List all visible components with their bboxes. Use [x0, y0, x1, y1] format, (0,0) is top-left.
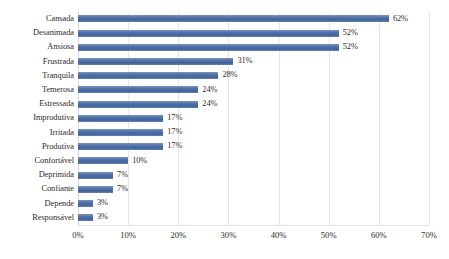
bar[interactable]	[78, 172, 113, 179]
bar[interactable]	[78, 115, 163, 122]
bar-value-label: 17%	[167, 125, 182, 139]
bar[interactable]	[78, 186, 113, 193]
bar-row: 7%	[78, 182, 429, 196]
category-label: Irritada	[0, 126, 74, 140]
bar-value-label: 52%	[343, 26, 358, 40]
x-tick-label: 60%	[371, 228, 387, 242]
bar-row: 3%	[78, 211, 429, 225]
x-axis-line	[78, 225, 429, 226]
category-label: Temerosa	[0, 83, 74, 97]
bar[interactable]	[78, 30, 339, 37]
category-label: Improdutiva	[0, 111, 74, 125]
bar[interactable]	[78, 72, 218, 79]
bar[interactable]	[78, 214, 93, 221]
category-label: Produtiva	[0, 140, 74, 154]
bar[interactable]	[78, 143, 163, 150]
category-axis-labels: CansadaDesanimadaAnsiosaFrustradaTranqui…	[0, 12, 74, 225]
bar-value-label: 62%	[393, 12, 408, 26]
gridline-70	[429, 12, 430, 225]
category-label: Responsável	[0, 211, 74, 225]
bar-row: 7%	[78, 168, 429, 182]
bar-value-label: 17%	[167, 111, 182, 125]
category-label: Tranquila	[0, 69, 74, 83]
category-label: Cansada	[0, 12, 74, 26]
category-label: Confiante	[0, 182, 74, 196]
bar[interactable]	[78, 15, 389, 22]
bar-value-label: 52%	[343, 40, 358, 54]
bar-row: 24%	[78, 97, 429, 111]
category-label: Ansiosa	[0, 40, 74, 54]
category-label: Deprimida	[0, 168, 74, 182]
x-tick-label: 50%	[321, 228, 337, 242]
bar-value-label: 28%	[222, 68, 237, 82]
bar-row: 17%	[78, 126, 429, 140]
bar-chart: CansadaDesanimadaAnsiosaFrustradaTranqui…	[0, 0, 449, 259]
category-label: Frustrada	[0, 55, 74, 69]
bar[interactable]	[78, 200, 93, 207]
bar-value-label: 3%	[97, 196, 108, 210]
bar-value-label: 3%	[97, 210, 108, 224]
x-tick-label: 20%	[170, 228, 186, 242]
bar-value-label: 31%	[237, 54, 252, 68]
bar[interactable]	[78, 157, 128, 164]
bar-row: 17%	[78, 140, 429, 154]
bar-row: 10%	[78, 154, 429, 168]
bar[interactable]	[78, 44, 339, 51]
category-label: Confortável	[0, 154, 74, 168]
bar-value-label: 24%	[202, 83, 217, 97]
bar-row: 17%	[78, 111, 429, 125]
bar[interactable]	[78, 129, 163, 136]
category-label: Estressada	[0, 97, 74, 111]
category-label: Depende	[0, 197, 74, 211]
x-tick-label: 70%	[421, 228, 437, 242]
x-tick-label: 10%	[120, 228, 136, 242]
bar-row: 24%	[78, 83, 429, 97]
category-label: Desanimada	[0, 26, 74, 40]
bar-row: 62%	[78, 12, 429, 26]
bar-row: 52%	[78, 26, 429, 40]
bar-row: 3%	[78, 197, 429, 211]
bar[interactable]	[78, 58, 233, 65]
bar-value-label: 7%	[117, 168, 128, 182]
bar-value-label: 17%	[167, 139, 182, 153]
bar-row: 31%	[78, 55, 429, 69]
bar-value-label: 10%	[132, 154, 147, 168]
bar-value-label: 24%	[202, 97, 217, 111]
x-tick-label: 0%	[72, 228, 83, 242]
bar-row: 28%	[78, 69, 429, 83]
bar[interactable]	[78, 101, 198, 108]
x-tick-label: 40%	[271, 228, 287, 242]
plot-area: 62%52%52%31%28%24%24%17%17%17%10%7%7%3%3…	[78, 12, 429, 225]
x-axis-tick-labels: 0%10%20%30%40%50%60%70%	[78, 228, 429, 244]
bar-value-label: 7%	[117, 182, 128, 196]
bar-row: 52%	[78, 40, 429, 54]
x-tick-label: 30%	[221, 228, 237, 242]
bar[interactable]	[78, 86, 198, 93]
